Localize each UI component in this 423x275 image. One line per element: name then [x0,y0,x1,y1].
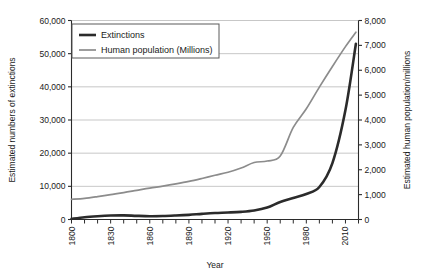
right-axis-tick-label: 8,000 [365,16,387,26]
x-axis-tick-label: 1860 [145,226,155,245]
right-axis-tick-label: 0 [365,215,370,225]
right-axis-tick-label: 7,000 [365,40,387,50]
legend[interactable]: ExtinctionsHuman population (Millions) [72,24,219,58]
left-axis-tick-label: 50,000 [40,49,66,59]
series-line-extinctions [72,44,356,219]
right-axis-tick-label: 3,000 [365,140,387,150]
left-axis-tick-label: 60,000 [40,16,66,26]
y-axis-left: 010,00020,00030,00040,00050,00060,000 [40,16,72,225]
right-axis-tick-label: 4,000 [365,115,387,125]
y-axis-right: 01,0002,0003,0004,0005,0006,0007,0008,00… [359,16,387,225]
y-axis-right-title: Estimated human population/millions [402,51,412,189]
right-axis-tick-label: 2,000 [365,165,387,175]
series-lines [72,32,356,219]
x-axis-tick-label: 1890 [184,226,194,245]
x-axis: 18001830186018901920195019802010 [67,220,359,246]
left-axis-tick-label: 20,000 [40,148,66,158]
x-axis-tick-label: 1830 [106,226,116,245]
chart-container: 010,00020,00030,00040,00050,00060,000 01… [0,0,423,275]
left-axis-tick-label: 0 [61,215,66,225]
x-axis-tick-label: 1980 [301,226,311,245]
x-axis-tick-label: 1950 [262,226,272,245]
x-axis-tick-label: 2010 [340,226,350,245]
left-axis-tick-label: 10,000 [40,181,66,191]
x-axis-tick-label: 1920 [223,226,233,245]
y-axis-left-title: Estimated numbers of extinctions [7,57,17,182]
left-axis-tick-label: 40,000 [40,82,66,92]
right-axis-tick-label: 1,000 [365,190,387,200]
right-axis-tick-label: 5,000 [365,90,387,100]
left-axis-tick-label: 30,000 [40,115,66,125]
legend-label-extinctions: Extinctions [101,30,145,40]
right-axis-tick-label: 6,000 [365,65,387,75]
x-axis-tick-label: 1800 [67,226,77,245]
line-chart: 010,00020,00030,00040,00050,00060,000 01… [0,0,423,275]
legend-label-human-population: Human population (Millions) [101,45,213,55]
x-axis-title: Year [206,260,223,270]
